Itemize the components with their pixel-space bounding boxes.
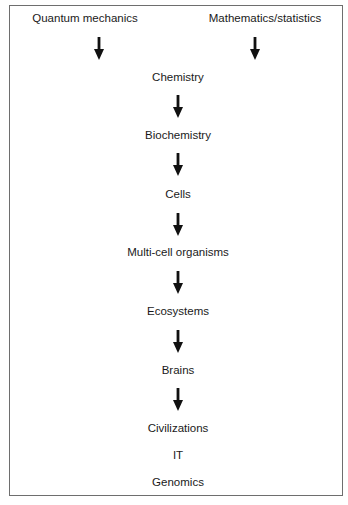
arrow-down-icon — [173, 330, 183, 353]
arrow-down-icon — [250, 37, 260, 60]
node-it: IT — [173, 450, 183, 462]
node-biochemistry: Biochemistry — [145, 130, 211, 142]
node-ecosystems: Ecosystems — [147, 306, 209, 318]
node-cells: Cells — [165, 189, 191, 201]
source-mathematics-statistics: Mathematics/statistics — [209, 13, 321, 25]
node-chemistry: Chemistry — [152, 72, 204, 84]
source-quantum-mechanics: Quantum mechanics — [32, 13, 137, 25]
node-genomics: Genomics — [152, 477, 204, 489]
arrow-down-icon — [94, 37, 104, 60]
node-multi-cell-organisms: Multi-cell organisms — [127, 247, 229, 259]
arrow-down-icon — [173, 213, 183, 236]
arrow-down-icon — [173, 153, 183, 176]
node-brains: Brains — [162, 365, 195, 377]
arrow-down-icon — [173, 388, 183, 411]
arrow-down-icon — [173, 95, 183, 118]
arrow-down-icon — [173, 271, 183, 294]
node-civilizations: Civilizations — [148, 423, 209, 435]
